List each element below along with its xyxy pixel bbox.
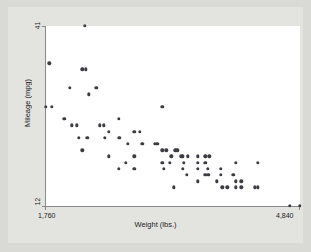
data-point: [203, 161, 206, 164]
data-point: [161, 105, 164, 108]
x-axis-tick-max: 4,840: [276, 212, 294, 219]
data-point: [234, 161, 237, 164]
plot-area: [45, 26, 300, 207]
data-point: [44, 105, 47, 108]
graph-region: Mileage (mpg) 41 12 1,760 4,840: [8, 7, 303, 243]
data-point: [62, 117, 65, 120]
data-point: [185, 173, 188, 176]
data-point: [95, 86, 98, 89]
y-axis-tick-max: 41: [35, 22, 42, 29]
data-point: [107, 130, 110, 133]
data-point: [196, 155, 199, 158]
data-point: [226, 186, 229, 189]
data-point: [133, 130, 136, 133]
data-point: [161, 161, 164, 164]
data-points-layer: [46, 26, 300, 206]
data-point: [75, 124, 78, 127]
data-point: [170, 155, 173, 158]
data-point: [240, 186, 243, 189]
data-point: [234, 179, 237, 182]
data-point: [83, 24, 86, 27]
data-point: [117, 117, 120, 120]
data-point: [196, 167, 199, 170]
data-point: [141, 142, 144, 145]
x-axis-tick-mark-min: [45, 207, 46, 210]
data-point: [175, 148, 178, 151]
data-point: [181, 167, 184, 170]
data-point: [50, 105, 53, 108]
data-point: [186, 155, 189, 158]
data-point: [87, 93, 90, 96]
data-point: [298, 204, 301, 207]
data-point: [102, 124, 105, 127]
data-point: [168, 161, 171, 164]
data-point: [196, 179, 199, 182]
data-point: [182, 161, 185, 164]
data-point: [156, 142, 159, 145]
data-point: [124, 161, 127, 164]
data-point: [231, 173, 234, 176]
data-point: [162, 167, 165, 170]
data-point: [221, 186, 224, 189]
data-point: [219, 167, 222, 170]
data-point: [207, 173, 210, 176]
data-point: [206, 167, 209, 170]
data-point: [161, 148, 164, 151]
data-point: [181, 155, 184, 158]
data-point: [126, 142, 129, 145]
data-point: [81, 148, 84, 151]
data-point: [256, 161, 259, 164]
x-axis-tick-mark-max: [299, 207, 300, 210]
data-point: [288, 204, 291, 207]
data-point: [107, 155, 110, 158]
data-point: [84, 68, 87, 71]
data-point: [117, 167, 120, 170]
data-point: [103, 136, 106, 139]
data-point: [196, 161, 199, 164]
data-point: [203, 155, 206, 158]
x-axis-tick-min: 1,760: [38, 212, 56, 219]
data-point: [48, 62, 51, 65]
data-point: [234, 186, 237, 189]
data-point: [208, 155, 211, 158]
data-point: [138, 130, 141, 133]
data-point: [172, 186, 175, 189]
data-point: [86, 136, 89, 139]
data-point: [133, 155, 136, 158]
data-point: [77, 136, 80, 139]
data-point: [215, 179, 218, 182]
data-point: [240, 179, 243, 182]
y-axis-tick-min: 12: [35, 198, 42, 205]
x-axis-title: Weight (lbs.): [0, 220, 311, 229]
data-point: [256, 186, 259, 189]
data-point: [219, 173, 222, 176]
data-point: [70, 124, 73, 127]
scatter-plot-screenshot: Mileage (mpg) 41 12 1,760 4,840 Weight (…: [0, 0, 311, 252]
data-point: [165, 148, 168, 151]
data-point: [68, 86, 71, 89]
data-point: [133, 167, 136, 170]
data-point: [98, 124, 101, 127]
data-point: [118, 136, 121, 139]
y-axis-title: Mileage (mpg): [23, 79, 32, 127]
